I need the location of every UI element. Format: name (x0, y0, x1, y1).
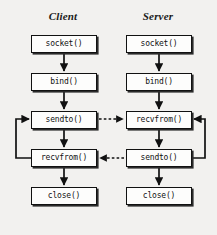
node-label: close() (143, 192, 175, 200)
node-label: recvfrom() (41, 154, 87, 162)
node-label: sendto() (46, 116, 83, 124)
node-client-bind[interactable]: bind() (31, 73, 97, 91)
node-server-bind[interactable]: bind() (126, 73, 192, 91)
node-label: bind() (50, 78, 78, 86)
node-server-socket[interactable]: socket() (126, 35, 192, 53)
node-label: bind() (145, 78, 173, 86)
node-client-socket[interactable]: socket() (31, 35, 97, 53)
node-label: socket() (46, 40, 83, 48)
node-client-sendto[interactable]: sendto() (31, 111, 97, 129)
arrow-server-loop (192, 119, 205, 158)
node-label: recvfrom() (136, 116, 182, 124)
node-label: close() (48, 192, 80, 200)
arrow-client-loop (16, 119, 31, 158)
node-server-close[interactable]: close() (126, 187, 192, 205)
udp-flow-diagram: Client Server socke (0, 0, 217, 235)
node-client-close[interactable]: close() (31, 187, 97, 205)
node-label: sendto() (141, 154, 178, 162)
node-label: socket() (141, 40, 178, 48)
node-server-recvfrom[interactable]: recvfrom() (126, 111, 192, 129)
node-client-recvfrom[interactable]: recvfrom() (31, 149, 97, 167)
node-server-sendto[interactable]: sendto() (126, 149, 192, 167)
